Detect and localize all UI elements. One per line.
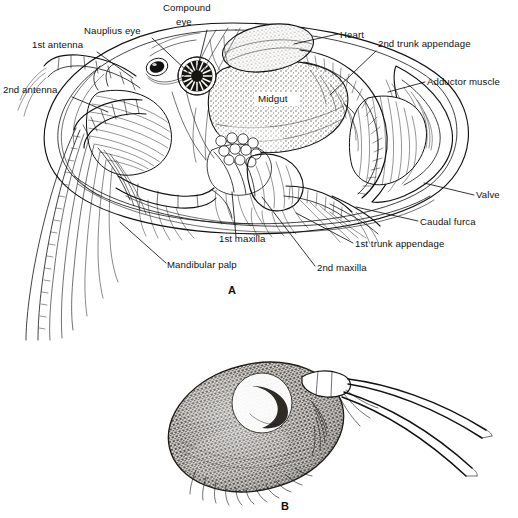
label-1st-trunk-appendage: 1st trunk appendage [355,238,444,249]
label-1st-antenna: 1st antenna [32,39,84,50]
label-adductor-muscle: Adductor muscle [427,76,500,87]
label-2nd-trunk-appendage: 2nd trunk appendage [378,38,471,49]
label-mandibular-palp: Mandibular palp [167,259,237,270]
label-compound-eye-line2: eye [176,16,192,27]
label-2nd-antenna: 2nd antenna [3,84,58,95]
label-caudal-furca: Caudal furca [420,216,476,227]
crescent-marking [232,373,292,433]
ostracod-figure: Compound eye Nauplius eye 1st antenna 2n… [0,0,518,518]
label-midgut: Midgut [258,93,288,104]
label-heart: Heart [340,29,364,40]
label-valve: Valve [476,189,500,200]
figure-root: Compound eye Nauplius eye 1st antenna 2n… [0,0,518,518]
compound-eye [178,57,216,95]
label-compound-eye: Compound [163,2,211,13]
label-2nd-maxilla: 2nd maxilla [317,262,367,273]
label-1st-maxilla: 1st maxilla [219,233,266,244]
panel-letter-b: B [281,500,289,512]
label-nauplius-eye: Nauplius eye [84,25,141,36]
panel-letter-a: A [228,284,236,296]
